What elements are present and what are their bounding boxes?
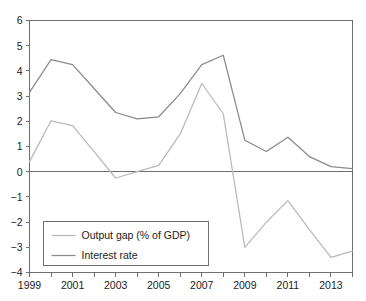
y-tick-label: 0 — [17, 166, 23, 178]
y-tick-label: −1 — [11, 191, 23, 203]
x-tick-label: 2001 — [61, 279, 85, 291]
y-tick-label: 4 — [17, 65, 23, 77]
x-tick-label: 2005 — [147, 279, 171, 291]
chart-legend: Output gap (% of GDP)Interest rate — [44, 222, 209, 266]
x-tick-label: 2007 — [190, 279, 214, 291]
y-axis-ticks: 6543210−1−2−3−4 — [11, 14, 30, 278]
legend-label: Interest rate — [82, 249, 138, 261]
y-tick-label: −3 — [11, 241, 23, 253]
x-tick-label: 2013 — [319, 279, 343, 291]
y-tick-label: −2 — [11, 216, 23, 228]
x-tick-label: 2009 — [233, 279, 257, 291]
y-tick-label: −4 — [11, 266, 23, 278]
x-axis-ticks: 19992001200320052007200920112013 — [18, 273, 353, 291]
x-tick-label: 2003 — [104, 279, 128, 291]
series-line-interest-rate — [30, 55, 353, 168]
y-tick-label: 2 — [17, 115, 23, 127]
chart-container: 6543210−1−2−3−4 199920012003200520072009… — [0, 0, 366, 301]
legend-label: Output gap (% of GDP) — [82, 229, 191, 241]
line-chart: 6543210−1−2−3−4 199920012003200520072009… — [0, 0, 366, 301]
y-tick-label: 1 — [17, 140, 23, 152]
x-tick-label: 1999 — [18, 279, 42, 291]
y-tick-label: 3 — [17, 90, 23, 102]
y-tick-label: 5 — [17, 40, 23, 52]
x-tick-label: 2011 — [277, 279, 300, 291]
y-tick-label: 6 — [17, 14, 23, 26]
